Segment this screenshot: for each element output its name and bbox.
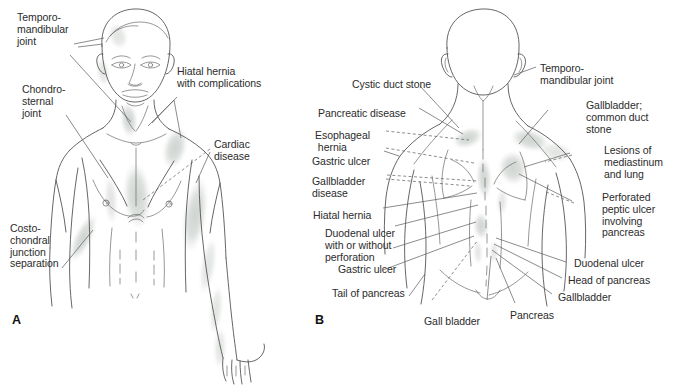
label-temporomandibular-joint: Temporo- mandibular joint [17, 12, 68, 47]
label-cardiac-disease: Cardiac disease [214, 139, 250, 163]
panel-letter-a: A [12, 313, 21, 327]
panel-letter-b: B [315, 313, 324, 327]
label-tail-of-pancreas: Tail of pancreas [332, 288, 405, 300]
label-gallbladder: Gallbladder [558, 292, 611, 304]
label-duodenal-ulcer: Duodenal ulcer [574, 258, 644, 270]
label-perforated-peptic-ulcer-involving-pancreas: Perforated peptic ulcer involving pancre… [602, 192, 655, 239]
label-pancreas: Pancreas [510, 310, 554, 322]
label-cystic-duct-stone: Cystic duct stone [352, 79, 431, 91]
label-gallbladder-common-duct-stone: Gallbladder; common duct stone [586, 100, 648, 135]
label-hiatal-hernia: Hiatal hernia [313, 210, 371, 222]
label-gall-bladder: Gall bladder [424, 316, 480, 328]
panel-b-leader-lines-bottom [432, 240, 515, 303]
label-lesions-of-mediastinum-and-lung: Lesions of mediastinum and lung [604, 145, 663, 180]
label-esophageal-hernia: Esophageal hernia [315, 130, 370, 154]
label-costochondral-junction-separation: Costo- chondral junction separation [10, 223, 59, 270]
label-gastric-ulcer-upper: Gastric ulcer [312, 156, 370, 168]
panel-b-artwork [383, 9, 586, 306]
referred-pain-figure: Temporo- mandibular joint Chondro- stern… [0, 0, 678, 385]
label-hiatal-hernia-with-complications: Hiatal hernia with complications [177, 66, 261, 90]
label-gallbladder-disease: Gallbladder disease [312, 176, 365, 200]
panel-b-leader-lines-right [492, 67, 574, 294]
label-pancreatic-disease: Pancreatic disease [318, 108, 406, 120]
label-head-of-pancreas: Head of pancreas [568, 275, 650, 287]
label-temporomandibular-joint-b: Temporo- mandibular joint [540, 63, 613, 87]
label-duodenal-ulcer-with-or-without-perforation: Duodenal ulcer with or without perforati… [325, 228, 395, 263]
label-gastric-ulcer-lower: Gastric ulcer [338, 264, 396, 276]
label-chondrosternal-joint: Chondro- sternal joint [22, 84, 65, 119]
